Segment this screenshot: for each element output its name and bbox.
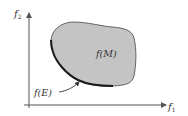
- y-axis-label: f2: [13, 8, 22, 20]
- objective-space-diagram: f2 f1 f(M) f(E): [0, 0, 188, 116]
- feasible-region-label: f(M): [95, 48, 117, 59]
- feasible-region-shape: [51, 22, 136, 86]
- x-axis-label: f1: [167, 101, 176, 113]
- pareto-front-pointer-arrow: [59, 82, 79, 92]
- pareto-front-label: f(E): [33, 87, 52, 98]
- diagram-canvas: f2 f1 f(M) f(E): [0, 0, 188, 116]
